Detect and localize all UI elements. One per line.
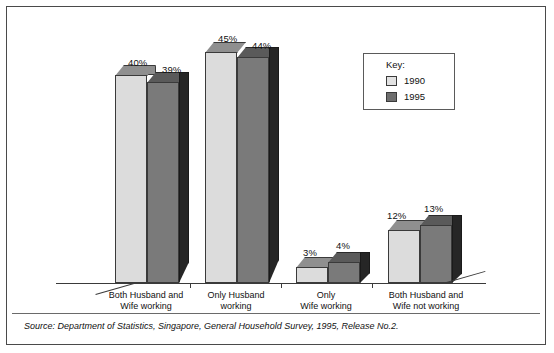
bar-side-face — [452, 215, 462, 283]
category-label-0-line2: Wife working — [96, 301, 196, 312]
axis-tick-1 — [281, 283, 282, 288]
source-divider — [12, 313, 540, 314]
bar-1990-cat3[interactable] — [388, 230, 420, 283]
value-label-1995-cat2: 4% — [336, 240, 350, 251]
bar-front-face — [115, 75, 147, 283]
bar-front-face — [388, 230, 420, 283]
value-label-1995-cat3: 13% — [424, 203, 443, 214]
category-label-1-line1: Only Husband — [192, 290, 280, 301]
category-label-0-line1: Both Husband and — [96, 290, 196, 301]
bar-1995-cat2[interactable] — [328, 262, 360, 283]
bar-side-face — [179, 72, 189, 283]
category-label-2-line2: Wife working — [282, 301, 370, 312]
bar-side-face — [360, 252, 370, 283]
bar-front-face — [420, 225, 452, 283]
value-label-1990-cat0: 40% — [128, 57, 147, 68]
bar-front-face — [328, 262, 360, 283]
bar-front-face — [296, 267, 328, 283]
bar-front-face — [237, 57, 269, 283]
axis-baseline — [56, 283, 486, 284]
bar-1995-cat1[interactable] — [237, 57, 269, 283]
category-label-1-line2: working — [192, 301, 280, 312]
bar-1995-cat0[interactable] — [147, 82, 179, 283]
category-label-2-line1: Only — [282, 290, 370, 301]
bar-side-face — [269, 47, 279, 283]
bar-front-face — [205, 52, 237, 283]
bar-1990-cat1[interactable] — [205, 52, 237, 283]
value-label-1990-cat3: 12% — [387, 210, 406, 221]
legend-box: Key: 1990 1995 — [363, 53, 455, 110]
legend-label-1995: 1995 — [404, 91, 425, 102]
value-label-1995-cat1: 44% — [252, 40, 271, 51]
legend-swatch-1990-icon — [386, 76, 397, 86]
category-label-0: Both Husband and Wife working — [96, 290, 196, 312]
value-label-1990-cat2: 3% — [303, 247, 317, 258]
axis-tick-2 — [372, 283, 373, 288]
legend-label-1990: 1990 — [404, 75, 425, 86]
legend-swatch-1995-icon — [386, 92, 397, 102]
source-note: Source: Department of Statistics, Singap… — [24, 321, 399, 331]
plot-area: 40% 39% 45% 44% — [0, 0, 554, 353]
category-label-3-line2: Wife not working — [371, 301, 481, 312]
bar-front-face — [147, 82, 179, 283]
category-label-3-line1: Both Husband and — [371, 290, 481, 301]
bar-1990-cat0[interactable] — [115, 75, 147, 283]
value-label-1995-cat0: 39% — [162, 64, 181, 75]
bar-1995-cat3[interactable] — [420, 225, 452, 283]
bar-1990-cat2[interactable] — [296, 267, 328, 283]
legend-title: Key: — [386, 59, 405, 70]
category-label-2: Only Wife working — [282, 290, 370, 312]
category-label-3: Both Husband and Wife not working — [371, 290, 481, 312]
chart-page: 40% 39% 45% 44% — [0, 0, 554, 353]
category-label-1: Only Husband working — [192, 290, 280, 312]
value-label-1990-cat1: 45% — [218, 33, 237, 44]
axis-tick-0 — [190, 283, 191, 288]
